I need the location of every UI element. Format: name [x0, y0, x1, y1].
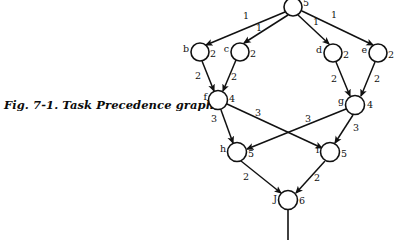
node-weight-label: 2 [210, 48, 216, 59]
figure-canvas: Fig. 7-1. Task Precedence graph. 1111222… [0, 0, 401, 241]
edge-weight-label: 3 [211, 113, 217, 124]
edge-weight-label: 2 [195, 70, 201, 81]
node-circle[interactable] [346, 96, 365, 115]
graph-node-c[interactable]: c2 [224, 43, 256, 61]
graph-node-h[interactable]: h5 [220, 143, 254, 162]
graph-node-b[interactable]: b2 [183, 43, 216, 61]
graph-edge: 3 [335, 115, 359, 143]
node-circle[interactable] [321, 143, 340, 162]
edge-arrow-f-i [227, 104, 322, 148]
graph-node-i[interactable]: i5 [316, 143, 347, 162]
edge-arrow-e-g [361, 62, 375, 96]
edge-weight-label: 3 [353, 122, 359, 133]
edge-weight-label: 2 [331, 73, 337, 84]
node-circle[interactable] [284, 0, 302, 16]
node-weight-label: 5 [248, 148, 254, 159]
node-circle[interactable] [324, 44, 342, 62]
node-letter-label: g [338, 95, 344, 106]
node-circle[interactable] [279, 191, 298, 210]
precedence-graph: 11112222333322 5b2c2d2e2f4g4h5i5J6 [0, 0, 401, 241]
graph-edge: 1 [298, 15, 329, 44]
edge-arrow-g-i [335, 115, 353, 143]
node-letter-label: b [183, 43, 189, 54]
graph-edge: 3 [211, 110, 233, 143]
node-weight-label: 5 [341, 148, 347, 159]
graph-node-f[interactable]: f4 [203, 91, 235, 110]
edge-weight-label: 3 [305, 113, 311, 124]
node-letter-label: d [316, 44, 322, 55]
graph-edge: 1 [302, 9, 373, 45]
edge-weight-label: 1 [256, 22, 262, 33]
node-letter-label: c [224, 43, 229, 54]
node-letter-label: i [316, 144, 319, 155]
node-weight-label: 2 [388, 49, 394, 60]
node-weight-label: 6 [299, 195, 305, 206]
node-circle[interactable] [369, 44, 387, 62]
edge-weight-label: 2 [374, 73, 380, 84]
edge-arrow-b-f [202, 61, 214, 91]
edge-arrow-i-J [296, 161, 325, 193]
edge-weight-label: 2 [243, 171, 249, 182]
node-circle[interactable] [209, 91, 228, 110]
graph-node-g[interactable]: g4 [338, 95, 373, 115]
node-circle[interactable] [231, 43, 249, 61]
node-circle[interactable] [228, 143, 247, 162]
graph-edge: 2 [195, 61, 214, 91]
node-letter-label: h [220, 143, 226, 154]
graph-node-e[interactable]: e2 [361, 44, 394, 62]
edge-weight-label: 2 [314, 172, 320, 183]
graph-edge: 2 [241, 161, 281, 193]
edge-arrow-f-h [221, 110, 233, 143]
nodes-layer: 5b2c2d2e2f4g4h5i5J6 [183, 0, 394, 210]
node-weight-label: 2 [250, 48, 256, 59]
node-circle[interactable] [191, 43, 209, 61]
graph-node-d[interactable]: d2 [316, 44, 349, 62]
node-letter-label: e [361, 44, 367, 55]
edge-weight-label: 1 [243, 10, 249, 21]
graph-edge: 3 [227, 104, 322, 148]
graph-node-a[interactable]: 5 [284, 0, 309, 16]
edge-weight-label: 2 [231, 71, 237, 82]
edge-weight-label: 3 [255, 107, 261, 118]
node-weight-label: 5 [303, 0, 309, 8]
edge-weight-label: 1 [331, 9, 337, 20]
node-letter-label: J [272, 193, 277, 204]
node-weight-label: 4 [367, 99, 373, 110]
node-weight-label: 2 [343, 49, 349, 60]
edge-arrow-d-g [336, 62, 350, 96]
node-weight-label: 4 [229, 93, 235, 104]
graph-edge: 2 [223, 60, 237, 91]
graph-edge: 2 [331, 62, 350, 96]
graph-edge: 2 [361, 62, 380, 96]
graph-edge: 2 [296, 161, 325, 193]
graph-node-J[interactable]: J6 [272, 191, 305, 210]
graph-edge: 1 [206, 10, 285, 45]
